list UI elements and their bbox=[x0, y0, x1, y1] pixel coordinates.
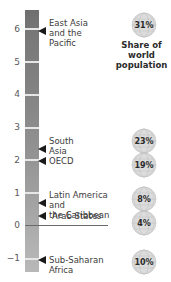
share-percent-value: 19% bbox=[131, 152, 157, 178]
share-percent-value: 23% bbox=[131, 128, 157, 154]
bar-tick-mark bbox=[25, 94, 39, 96]
bar-tick-mark bbox=[25, 192, 39, 194]
marker-arrow-sub-saharan-africa bbox=[38, 256, 46, 264]
share-badge-arab-states: 4% bbox=[131, 210, 157, 236]
bar-tick-mark bbox=[25, 61, 39, 63]
region-label-east-asia-and-the-pacific: East Asia and the Pacific bbox=[49, 18, 111, 48]
region-label-sub-saharan-africa: Sub-Saharan Africa bbox=[49, 255, 129, 275]
marker-arrow-latin-america-and-the-caribbean bbox=[38, 199, 46, 207]
share-percent-value: 4% bbox=[131, 210, 157, 236]
axis-tick-0: 0 bbox=[0, 221, 20, 230]
growth-vs-population-share-chart: 6 5 4 3 2 1 0 −1 East Asia and the Pacif… bbox=[0, 0, 171, 282]
bar-tick-mark bbox=[25, 159, 39, 161]
gradient-scale-bar bbox=[25, 10, 39, 272]
bar-tick-mark bbox=[25, 258, 39, 260]
region-label-oecd: OECD bbox=[49, 156, 104, 166]
axis-tick-6: 6 bbox=[0, 25, 20, 34]
share-badge-latin-america-and-the-caribbean: 8% bbox=[131, 186, 157, 212]
marker-arrow-south-asia bbox=[38, 145, 46, 153]
share-badge-oecd: 19% bbox=[131, 152, 157, 178]
axis-tick-1: 1 bbox=[0, 189, 20, 198]
share-badge-east-asia-and-the-pacific: 31% bbox=[131, 12, 157, 38]
axis-tick-5: 5 bbox=[0, 58, 20, 67]
zero-baseline bbox=[25, 225, 108, 226]
share-badge-sub-saharan-africa: 10% bbox=[131, 249, 157, 275]
share-percent-value: 31% bbox=[131, 12, 157, 38]
axis-tick-minus-1: −1 bbox=[0, 254, 20, 263]
axis-tick-2: 2 bbox=[0, 156, 20, 165]
axis-tick-4: 4 bbox=[0, 90, 20, 99]
region-label-arab-states: Arab States bbox=[52, 211, 114, 221]
marker-arrow-arab-states bbox=[38, 212, 46, 220]
share-percent-value: 8% bbox=[131, 186, 157, 212]
share-percent-value: 10% bbox=[131, 249, 157, 275]
marker-arrow-east-asia-and-the-pacific bbox=[38, 27, 46, 35]
marker-arrow-oecd bbox=[38, 157, 46, 165]
share-of-world-population-caption: Share of world population bbox=[112, 40, 171, 70]
bar-tick-mark bbox=[25, 127, 39, 129]
axis-tick-3: 3 bbox=[0, 123, 20, 132]
bar-tick-mark bbox=[25, 28, 39, 30]
share-badge-south-asia: 23% bbox=[131, 128, 157, 154]
region-label-south-asia: South Asia bbox=[49, 136, 104, 156]
